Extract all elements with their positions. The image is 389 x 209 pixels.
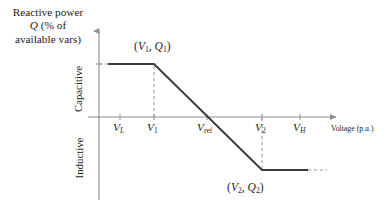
x-tick-label-vref: Vref (197, 121, 212, 134)
x-tick-label-v1: V1 (147, 121, 158, 134)
x-tick-label-vref-sub: ref (204, 126, 212, 135)
x-tick-label-v2-base: V (255, 121, 262, 133)
x-tick-label-vh-base: V (293, 121, 300, 133)
point-2-annotation: (V2, Q2) (227, 181, 264, 195)
capacitive-region-label: Capacitive (72, 58, 84, 120)
y-axis-title-line2: Q (% of (2, 19, 94, 32)
point-1-annotation: (V1, Q1) (134, 40, 171, 54)
point-2-q-symbol: Q (248, 181, 256, 194)
y-axis-title-line1: Reactive power (2, 6, 94, 19)
figure-canvas: Reactive power Q (% of available vars) C… (0, 0, 389, 209)
x-tick-label-vl-sub: L (120, 126, 124, 135)
x-tick-label-v1-sub: 1 (154, 126, 158, 135)
x-tick-label-vh-sub: H (300, 126, 305, 135)
x-tick-label-vl: VL (113, 121, 124, 134)
y-axis-symbol: Q (30, 19, 38, 31)
point-2-close-paren: ) (260, 181, 264, 194)
point-1-q-symbol: Q (155, 40, 163, 53)
x-tick-label-v2-sub: 2 (262, 126, 266, 135)
x-axis-title: Voltage (p.u.) (331, 124, 374, 133)
point-2-v-symbol: V (231, 181, 238, 194)
x-tick-label-vl-base: V (113, 121, 120, 133)
x-tick-label-v2: V2 (255, 121, 266, 134)
x-tick-label-vh: VH (293, 121, 305, 134)
point-1-v-symbol: V (138, 40, 145, 53)
x-tick-label-v1-base: V (147, 121, 154, 133)
y-axis-title-line3: available vars) (2, 33, 94, 46)
y-axis-units: (% of (38, 19, 66, 31)
y-axis-title: Reactive power Q (% of available vars) (2, 6, 94, 46)
inductive-region-label: Inductive (73, 128, 85, 188)
point-1-close-paren: ) (167, 40, 171, 53)
x-tick-label-vref-base: V (197, 121, 204, 133)
